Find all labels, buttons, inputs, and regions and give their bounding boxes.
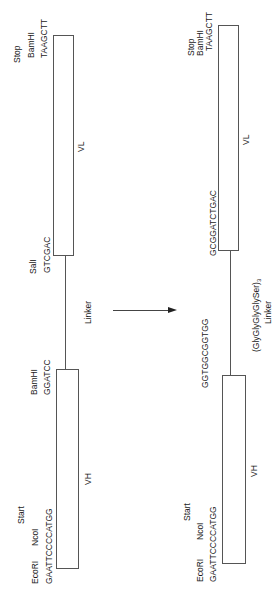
after-vh-box	[222, 375, 246, 564]
before-start-label: Start	[17, 506, 26, 524]
before-ecori-label: EcoRI	[31, 561, 40, 584]
after-linker-repeat: 3	[256, 279, 262, 282]
before-vh-label: VH	[84, 473, 93, 485]
after-start-label: Start	[183, 503, 192, 521]
before-stop-label: Stop	[13, 46, 22, 64]
before-vh-box	[56, 369, 79, 569]
after-gcggatctgac-seq: GCGGATCTGAC	[209, 190, 218, 256]
before-taagctt-seq: TAAGCTT	[40, 19, 49, 58]
after-linker-label: Linker	[264, 301, 273, 324]
before-linker-label: Linker	[84, 301, 93, 324]
before-sali-label: SalI	[29, 259, 38, 274]
after-vl-label: VL	[242, 135, 251, 145]
before-ncoi-label: NcoI	[31, 529, 40, 546]
before-gaattcccc-seq: GAATTCCCCATGG	[45, 508, 54, 584]
after-taagctt-seq: TAAGCTT	[205, 12, 214, 51]
before-bamhi-label: BamHI	[30, 369, 39, 395]
after-linker-line	[230, 250, 231, 376]
before-linker-line	[65, 255, 66, 370]
after-linker-peptide: (GlyGlyGlyGlySer)3	[252, 279, 262, 352]
after-vl-box	[218, 25, 239, 251]
before-ggatcc-seq: GGATCC	[43, 359, 52, 395]
after-ncoi-label: NcoI	[196, 523, 205, 540]
arrow-shaft	[113, 310, 169, 311]
before-bamhi-top-label: BamHI	[27, 32, 36, 58]
after-gaattcccc-seq: GAATTCCCCATGG	[209, 506, 218, 582]
arrow-head-icon	[168, 307, 177, 313]
before-vl-label: VL	[77, 142, 86, 152]
after-ggtggcggtgg-seq: GGTGGCGGTGG	[201, 319, 210, 388]
before-vl-box	[53, 35, 74, 256]
after-ecori-label: EcoRI	[196, 559, 205, 582]
before-gtcgac-seq: GTCGAC	[43, 237, 52, 273]
after-vh-label: VH	[250, 465, 259, 477]
